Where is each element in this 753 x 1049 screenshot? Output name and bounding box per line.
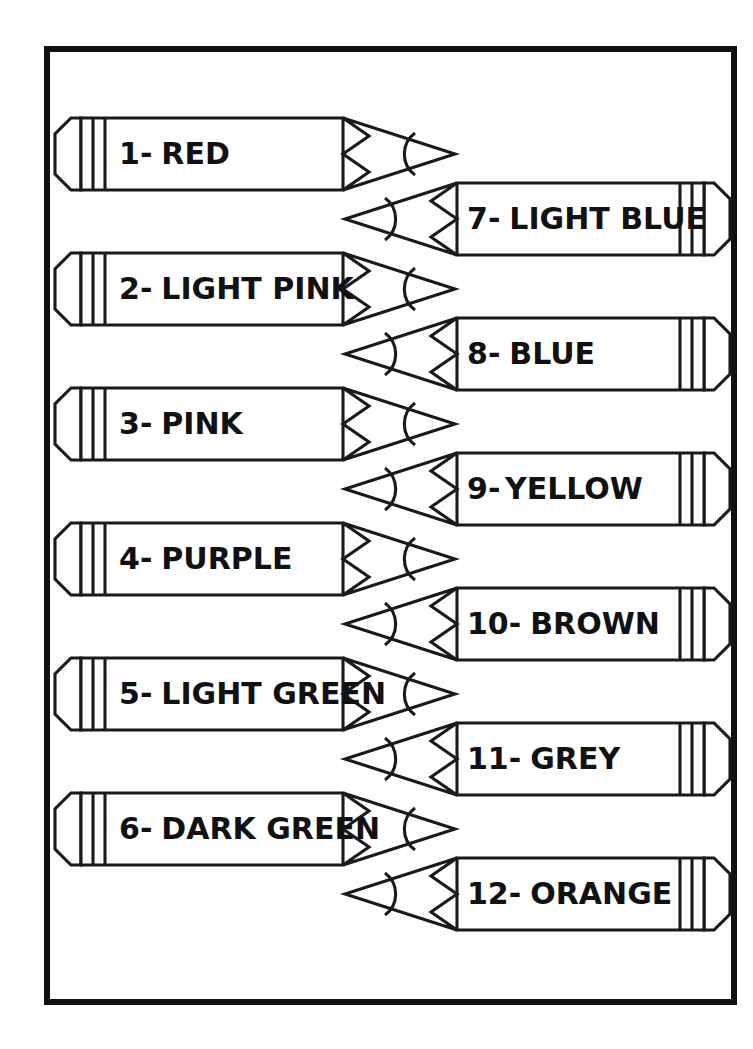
pencil-eraser-cap (704, 453, 730, 525)
pencil-label: LIGHT GREEN (161, 676, 386, 711)
pencil-sheet-canvas: 1-RED2-LIGHT PINK3-PINK4-PURPLE5-LIGHT G… (0, 0, 753, 1049)
pencil-sharpened-tip (343, 523, 455, 595)
pencil-separator: - (140, 541, 152, 576)
pencil-number: 5 (119, 676, 140, 711)
pencil-label: ORANGE (530, 876, 672, 911)
pencil-item-10[interactable]: 10-BROWN (345, 588, 730, 660)
pencil-sharpened-tip (345, 858, 457, 930)
pencil-number: 10 (467, 606, 509, 641)
pencil-item-9[interactable]: 9-YELLOW (345, 453, 730, 525)
pencil-sharpened-tip (343, 388, 455, 460)
pencil-separator: - (509, 606, 521, 641)
pencil-item-3[interactable]: 3-PINK (55, 388, 455, 460)
pencil-sharpened-tip (345, 453, 457, 525)
pencil-eraser-cap (704, 723, 730, 795)
pencil-label: DARK GREEN (161, 811, 380, 846)
pencil-label: BLUE (509, 336, 595, 371)
pencil-item-7[interactable]: 7-LIGHT BLUE (345, 183, 730, 255)
pencil-sharpened-tip (343, 253, 455, 325)
pencil-number: 8 (467, 336, 488, 371)
pencil-item-4[interactable]: 4-PURPLE (55, 523, 455, 595)
pencil-separator: - (140, 406, 152, 441)
pencil-separator: - (509, 741, 521, 776)
pencil-label: BROWN (530, 606, 660, 641)
pencil-text-10: 10-BROWN (467, 606, 660, 641)
pencil-label: PINK (161, 406, 244, 441)
pencil-eraser-cap (55, 118, 81, 190)
pencil-sharpened-tip (345, 723, 457, 795)
pencil-item-6[interactable]: 6-DARK GREEN (55, 793, 455, 865)
pencil-label: PURPLE (161, 541, 292, 576)
pencil-eraser-cap (55, 523, 81, 595)
pencil-number: 7 (467, 201, 488, 236)
pencil-separator: - (140, 271, 152, 306)
pencil-text-11: 11-GREY (467, 741, 621, 776)
pencil-number: 12 (467, 876, 509, 911)
pencil-item-5[interactable]: 5-LIGHT GREEN (55, 658, 455, 730)
pencil-item-8[interactable]: 8-BLUE (345, 318, 730, 390)
worksheet-page: 1-RED2-LIGHT PINK3-PINK4-PURPLE5-LIGHT G… (0, 0, 753, 1049)
pencil-separator: - (140, 136, 152, 171)
pencil-sharpened-tip (345, 183, 457, 255)
pencil-eraser-cap (704, 318, 730, 390)
pencil-text-4: 4-PURPLE (119, 541, 292, 576)
pencil-eraser-cap (55, 253, 81, 325)
pencil-item-12[interactable]: 12-ORANGE (345, 858, 730, 930)
pencil-number: 1 (119, 136, 140, 171)
pencil-label: YELLOW (504, 471, 643, 506)
pencil-number: 2 (119, 271, 140, 306)
pencil-number: 3 (119, 406, 140, 441)
pencil-sharpened-tip (345, 588, 457, 660)
pencil-eraser-cap (55, 658, 81, 730)
pencil-number: 11 (467, 741, 509, 776)
pencil-label: LIGHT PINK (161, 271, 355, 306)
pencil-eraser-cap (704, 588, 730, 660)
pencil-number: 4 (119, 541, 140, 576)
pencil-separator: - (488, 201, 500, 236)
pencil-eraser-cap (55, 388, 81, 460)
pencil-label: GREY (530, 741, 621, 776)
pencil-item-2[interactable]: 2-LIGHT PINK (55, 253, 455, 325)
pencil-separator: - (509, 876, 521, 911)
pencil-text-1: 1-RED (119, 136, 230, 171)
pencil-eraser-cap (704, 183, 730, 255)
pencil-separator: - (140, 811, 152, 846)
pencil-text-9: 9-YELLOW (467, 471, 643, 506)
pencil-label: LIGHT BLUE (509, 201, 706, 236)
pencil-separator: - (140, 676, 152, 711)
pencil-text-8: 8-BLUE (467, 336, 595, 371)
pencil-text-12: 12-ORANGE (467, 876, 672, 911)
pencil-item-1[interactable]: 1-RED (55, 118, 455, 190)
pencil-item-11[interactable]: 11-GREY (345, 723, 730, 795)
pencil-group: 1-RED2-LIGHT PINK3-PINK4-PURPLE5-LIGHT G… (55, 118, 730, 930)
pencil-separator: - (488, 336, 500, 371)
pencil-number: 9 (467, 471, 488, 506)
pencil-number: 6 (119, 811, 140, 846)
pencil-text-3: 3-PINK (119, 406, 245, 441)
pencil-sharpened-tip (345, 318, 457, 390)
pencil-eraser-cap (55, 793, 81, 865)
pencil-eraser-cap (704, 858, 730, 930)
pencil-label: RED (161, 136, 230, 171)
pencil-sharpened-tip (343, 118, 455, 190)
